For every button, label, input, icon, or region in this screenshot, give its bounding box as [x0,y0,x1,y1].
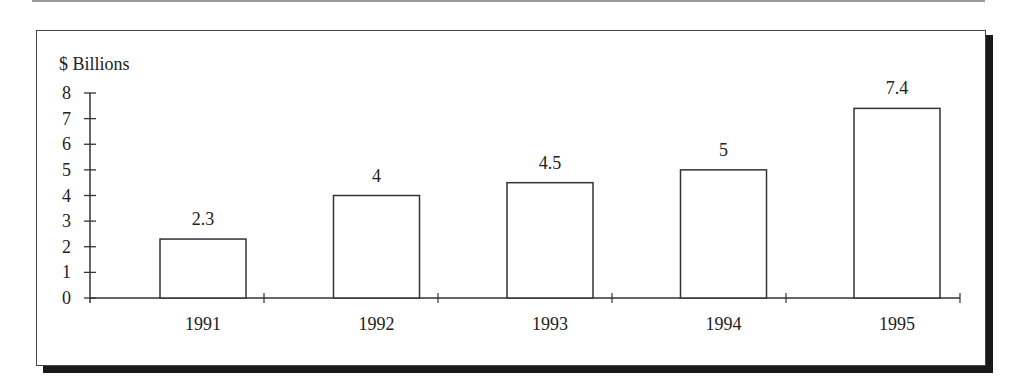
bar-1993 [507,183,593,298]
bar-1992 [334,196,420,299]
x-tick-label: 1994 [706,314,742,334]
data-label: 4.5 [539,153,562,173]
x-tick-label: 1993 [532,314,568,334]
x-tick-label: 1992 [359,314,395,334]
y-tick-label: 7 [62,109,71,129]
data-label: 7.4 [886,78,909,98]
y-tick-label: 4 [62,186,71,206]
y-tick-label: 2 [62,237,71,257]
x-tick-label: 1995 [879,314,915,334]
bar-1994 [681,170,767,298]
x-tick-label: 1991 [185,314,221,334]
y-tick-label: 5 [62,160,71,180]
y-tick-label: 6 [62,134,71,154]
bar-1995 [854,108,940,298]
y-tick-label: 0 [62,288,71,308]
data-label: 2.3 [192,209,215,229]
y-tick-label: 1 [62,262,71,282]
data-label: 5 [719,140,728,160]
y-tick-label: 8 [62,83,71,103]
data-label: 4 [372,166,381,186]
bar-chart: 0123456782.31991419924.51993519947.41995 [0,0,1021,387]
y-tick-label: 3 [62,211,71,231]
bar-1991 [160,239,246,298]
